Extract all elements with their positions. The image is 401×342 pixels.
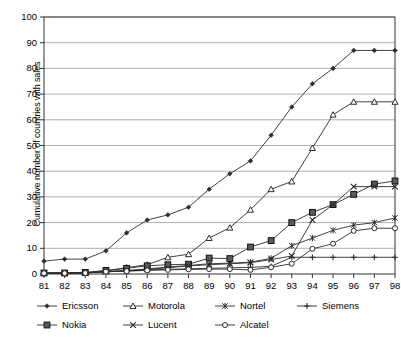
legend-label: Nortel bbox=[240, 301, 265, 311]
legend-label: Motorola bbox=[148, 301, 185, 311]
legend-item-motorola[interactable]: Motorola bbox=[122, 301, 214, 311]
y-tick-label: 70 bbox=[0, 88, 37, 99]
legend-item-ericsson[interactable]: Ericsson bbox=[36, 301, 122, 311]
series-ericsson bbox=[42, 48, 398, 263]
y-tick-label: 80 bbox=[0, 62, 37, 73]
legend-row-1: EricssonMotorolaNortelSiemens bbox=[0, 296, 401, 315]
y-tick-label: 10 bbox=[0, 242, 37, 253]
diamond-marker-icon bbox=[36, 301, 58, 311]
triangle-marker-icon bbox=[122, 301, 144, 311]
legend-item-nokia[interactable]: Nokia bbox=[36, 320, 122, 330]
legend-item-siemens[interactable]: Siemens bbox=[296, 301, 381, 311]
gridlines bbox=[44, 17, 395, 248]
cross-marker-icon bbox=[122, 320, 144, 330]
square-marker-icon bbox=[36, 320, 58, 330]
x-tick-label: 98 bbox=[381, 280, 401, 291]
y-tick-label: 20 bbox=[0, 217, 37, 228]
series-lucent bbox=[41, 184, 398, 276]
y-tick-label: 60 bbox=[0, 114, 37, 125]
legend-item-nortel[interactable]: Nortel bbox=[214, 301, 296, 311]
legend-label: Siemens bbox=[322, 301, 359, 311]
series-motorola bbox=[41, 99, 398, 276]
line-chart-svg bbox=[0, 0, 401, 300]
series-nokia bbox=[41, 178, 398, 276]
circle-marker-icon bbox=[214, 320, 236, 330]
y-tick-label: 0 bbox=[0, 268, 37, 279]
y-tick-label: 50 bbox=[0, 140, 37, 151]
y-axis-ticks bbox=[40, 17, 44, 274]
y-tick-label: 30 bbox=[0, 191, 37, 202]
legend-item-alcatel[interactable]: Alcatel bbox=[214, 320, 296, 330]
y-tick-label: 100 bbox=[0, 11, 37, 22]
legend-label: Nokia bbox=[62, 320, 86, 330]
y-tick-label: 90 bbox=[0, 37, 37, 48]
chart-legend: EricssonMotorolaNortelSiemens NokiaLucen… bbox=[0, 296, 401, 334]
y-tick-label: 40 bbox=[0, 165, 37, 176]
plus-marker-icon bbox=[296, 301, 318, 311]
asterisk-marker-icon bbox=[214, 301, 236, 311]
legend-label: Lucent bbox=[148, 320, 177, 330]
series-nortel bbox=[41, 215, 397, 276]
legend-item-lucent[interactable]: Lucent bbox=[122, 320, 214, 330]
chart-container: Cumulative number of countries with sale… bbox=[0, 0, 401, 342]
legend-label: Alcatel bbox=[240, 320, 269, 330]
plot-area bbox=[0, 0, 401, 304]
x-axis-ticks bbox=[44, 274, 395, 278]
legend-row-2: NokiaLucentAlcatel bbox=[0, 315, 401, 334]
legend-label: Ericsson bbox=[62, 301, 98, 311]
